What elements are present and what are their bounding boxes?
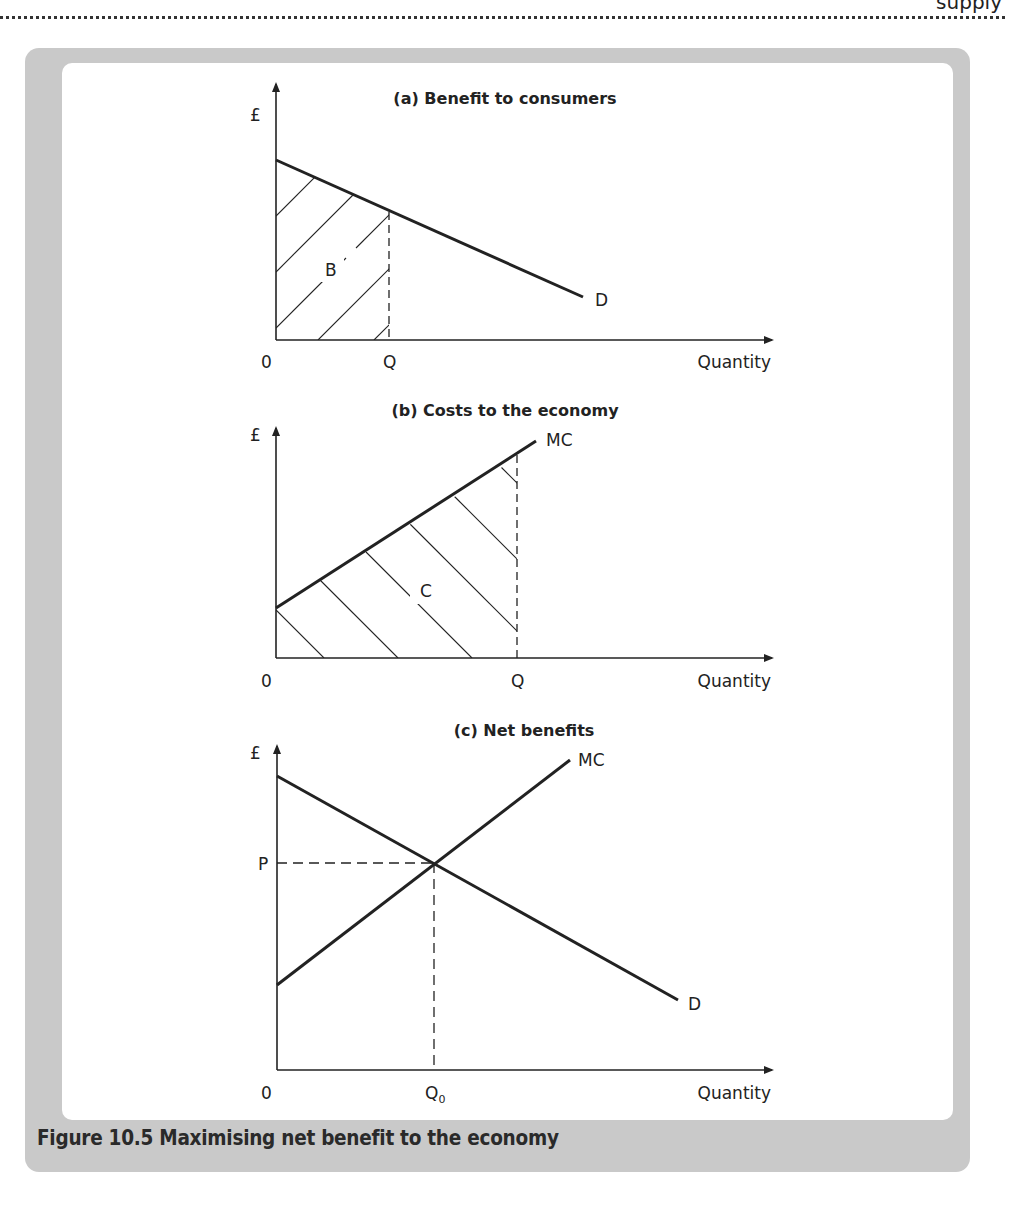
y-axis-label: £	[250, 105, 261, 125]
y-axis-label: £	[250, 425, 261, 445]
chart-benefit-to-consumers: (a) Benefit to consumers B £ D 0 Q Quant…	[250, 84, 772, 372]
origin-label: 0	[261, 352, 272, 372]
curve-label-mc: MC	[578, 750, 605, 770]
demand-curve	[277, 776, 678, 1000]
origin-label: 0	[261, 671, 272, 691]
x-axis-label: Quantity	[698, 671, 771, 691]
p-label: P	[258, 854, 268, 874]
area-label-c: C	[420, 581, 432, 601]
curve-label-d: D	[688, 994, 701, 1014]
q0-label: Q0	[425, 1083, 445, 1106]
x-axis-label: Quantity	[698, 352, 771, 372]
chart-net-benefits: (c) Net benefits £ P MC D 0 Q0 Quantity	[250, 721, 772, 1106]
origin-label: 0	[261, 1083, 272, 1103]
figure-charts: (a) Benefit to consumers B £ D 0 Q Quant…	[0, 0, 1010, 1211]
mc-curve	[277, 760, 570, 985]
hatched-area-b	[276, 146, 430, 340]
curve-label-d: D	[595, 290, 608, 310]
q-label: Q	[383, 352, 396, 372]
area-label-b: B	[325, 260, 337, 280]
y-axis-label: £	[250, 743, 261, 763]
chart-b-title: (b) Costs to the economy	[391, 401, 619, 420]
chart-costs-to-economy: (b) Costs to the economy C £ MC 0 Q Quan…	[250, 401, 772, 696]
mc-curve	[276, 441, 536, 608]
chart-c-title: (c) Net benefits	[454, 721, 595, 740]
chart-a-title: (a) Benefit to consumers	[393, 89, 616, 108]
x-axis-label: Quantity	[698, 1083, 771, 1103]
curve-label-mc: MC	[546, 430, 573, 450]
q-label: Q	[511, 671, 524, 691]
